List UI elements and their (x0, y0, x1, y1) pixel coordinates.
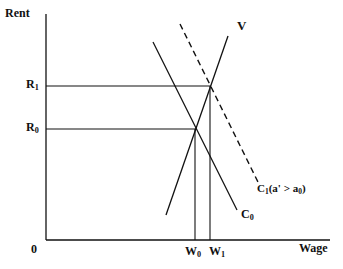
curve-label-c1-condition-subscript: 0 (298, 187, 302, 196)
tick-label-rent-high: R1 (26, 78, 39, 90)
tick-label-rent-low-base: R (26, 120, 35, 134)
curve-label-c0-subscript: 0 (250, 213, 254, 222)
tick-label-wage-high-base: W (209, 244, 221, 258)
curve-label-v: V (237, 19, 246, 32)
tick-label-wage-high-subscript: 1 (221, 250, 225, 259)
curve-label-c1-subscript: 1 (265, 187, 269, 196)
curve-label-c1-base: C (257, 182, 265, 194)
cost-curve-c1-dashed (180, 24, 258, 182)
tick-label-rent-high-base: R (26, 77, 35, 91)
origin-label: 0 (31, 243, 37, 255)
tick-label-wage-low-base: W (185, 244, 197, 258)
curve-label-c1-condition-end: ) (302, 182, 306, 194)
tick-label-rent-high-subscript: 1 (35, 83, 39, 92)
tick-label-wage-high: W1 (209, 245, 225, 257)
x-axis-title: Wage (299, 242, 328, 254)
curve-label-c0: C0 (241, 208, 254, 220)
curve-label-c1-condition: (a' > a (269, 182, 299, 194)
y-axis-title: Rent (5, 7, 30, 19)
economics-diagram: Rent Wage 0 R1 R0 W0 W1 V C0 C1(a' > a0) (0, 0, 343, 269)
tick-label-wage-low-subscript: 0 (197, 250, 201, 259)
tick-label-wage-low: W0 (185, 245, 201, 257)
tick-label-rent-low: R0 (26, 121, 39, 133)
diagram-canvas (0, 0, 343, 269)
curve-label-c0-base: C (241, 207, 250, 221)
value-curve-v (166, 36, 228, 215)
tick-label-rent-low-subscript: 0 (35, 126, 39, 135)
curve-label-c1: C1(a' > a0) (257, 183, 306, 194)
